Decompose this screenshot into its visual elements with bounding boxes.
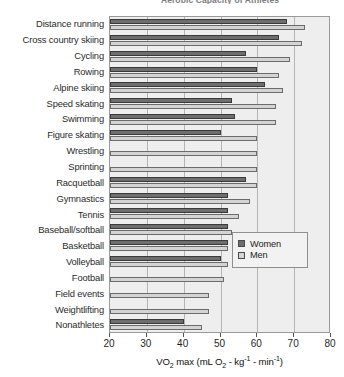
bar-women — [110, 161, 329, 166]
bar-women — [110, 177, 246, 182]
bar-row — [110, 96, 329, 112]
bar-men — [110, 230, 232, 235]
category-label: Field events — [0, 285, 107, 301]
bar-row — [110, 112, 329, 128]
x-tick-label: 80 — [324, 338, 335, 349]
category-axis: Distance runningCross country skiingCycl… — [0, 16, 107, 333]
bar-women — [110, 130, 221, 135]
x-tick — [220, 333, 221, 337]
category-label: Swimming — [0, 111, 107, 127]
chart-figure: Aerobic Capacity of Athletes Distance ru… — [0, 0, 344, 377]
bar-row — [110, 64, 329, 80]
category-label: Gymnastics — [0, 190, 107, 206]
x-axis-title: VO2 max (mL O2 - kg-1 - min-1) — [109, 355, 330, 369]
bar-women — [110, 287, 329, 292]
bar-women — [110, 271, 329, 276]
x-tick — [109, 333, 110, 337]
bar-row — [110, 285, 329, 301]
category-label: Figure skating — [0, 127, 107, 143]
bar-men — [110, 88, 283, 93]
category-label: Speed skating — [0, 95, 107, 111]
x-axis-ticks — [109, 333, 330, 337]
category-label: Nonathletes — [0, 317, 107, 333]
bar-row — [110, 49, 329, 65]
chart-legend: WomenMen — [232, 232, 308, 268]
category-label: Baseball/softball — [0, 222, 107, 238]
x-axis-title-dot-1: - kg — [226, 356, 244, 367]
bar-row — [110, 127, 329, 143]
bar-men — [110, 73, 279, 78]
category-label: Distance running — [0, 16, 107, 32]
bar-row — [110, 190, 329, 206]
bar-women — [110, 114, 235, 119]
bar-row — [110, 159, 329, 175]
legend-swatch-women — [238, 240, 245, 247]
bar-men — [110, 151, 257, 156]
x-tick — [183, 333, 184, 337]
category-label: Volleyball — [0, 254, 107, 270]
x-axis-title-mid: max (mL O — [174, 356, 223, 367]
legend-entry: Women — [238, 239, 302, 249]
x-tick-label: 50 — [214, 338, 225, 349]
x-axis-tick-labels: 20304050607080 — [109, 338, 330, 351]
bar-men — [110, 325, 202, 330]
bar-men — [110, 104, 276, 109]
x-axis-title-dot-2: - min — [250, 356, 273, 367]
bar-row — [110, 17, 329, 33]
x-tick — [293, 333, 294, 337]
category-label: Rowing — [0, 64, 107, 80]
bar-women — [110, 35, 279, 40]
category-label: Tennis — [0, 206, 107, 222]
bar-row — [110, 143, 329, 159]
bar-row — [110, 175, 329, 191]
bar-men — [110, 246, 228, 251]
category-label: Racquetball — [0, 174, 107, 190]
category-label: Wrestling — [0, 143, 107, 159]
bar-rows — [110, 17, 329, 332]
bar-row — [110, 206, 329, 222]
x-tick-label: 60 — [251, 338, 262, 349]
bar-men — [110, 262, 228, 267]
bar-women — [110, 98, 232, 103]
bar-row — [110, 269, 329, 285]
bar-women — [110, 240, 228, 245]
category-label: Alpine skiing — [0, 79, 107, 95]
bar-men — [110, 57, 290, 62]
legend-entry: Men — [238, 250, 302, 260]
x-tick-label: 40 — [177, 338, 188, 349]
bar-men — [110, 25, 305, 30]
bar-men — [110, 41, 302, 46]
bar-women — [110, 19, 287, 24]
bar-men — [110, 167, 257, 172]
bar-men — [110, 309, 209, 314]
x-tick-label: 20 — [103, 338, 114, 349]
bar-men — [110, 136, 257, 141]
bar-women — [110, 82, 265, 87]
category-label: Sprinting — [0, 159, 107, 175]
bar-women — [110, 208, 228, 213]
x-tick — [256, 333, 257, 337]
bar-men — [110, 199, 250, 204]
category-label: Cross country skiing — [0, 32, 107, 48]
legend-label: Women — [250, 239, 281, 249]
bar-men — [110, 293, 209, 298]
x-axis-title-lead: VO — [156, 356, 170, 367]
x-axis-title-close: ) — [280, 356, 283, 367]
x-tick — [146, 333, 147, 337]
x-tick — [330, 333, 331, 337]
bar-row — [110, 316, 329, 332]
legend-swatch-men — [238, 252, 245, 259]
bar-women — [110, 303, 329, 308]
category-label: Football — [0, 270, 107, 286]
bar-men — [110, 183, 257, 188]
x-tick-label: 30 — [140, 338, 151, 349]
bar-women — [110, 193, 228, 198]
plot-area — [109, 16, 330, 333]
bar-men — [110, 120, 276, 125]
bar-men — [110, 214, 239, 219]
bar-women — [110, 145, 329, 150]
legend-label: Men — [250, 250, 268, 260]
bar-women — [110, 319, 184, 324]
bar-row — [110, 80, 329, 96]
bar-row — [110, 33, 329, 49]
